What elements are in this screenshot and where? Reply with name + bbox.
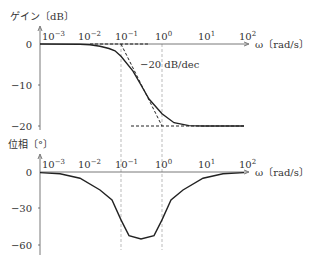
svg-text:102: 102 xyxy=(239,30,256,42)
phase-xlabel: ω〔rad/s〕 xyxy=(255,167,309,178)
gain-xlabel: ω〔rad/s〕 xyxy=(255,39,309,50)
svg-text:10−1: 10−1 xyxy=(115,30,138,42)
svg-text:10−2: 10−2 xyxy=(78,30,101,42)
phase-y-tick-neg30: −30 xyxy=(11,203,32,214)
svg-text:10−1: 10−1 xyxy=(115,158,138,170)
svg-text:101: 101 xyxy=(198,30,215,42)
svg-text:10−2: 10−2 xyxy=(78,158,101,170)
svg-text:101: 101 xyxy=(198,158,215,170)
slope-annotation: −20 dB/dec xyxy=(140,59,200,70)
svg-text:100: 100 xyxy=(155,158,172,170)
gain-ylabel: ゲイン〔dB〕 xyxy=(10,11,74,22)
svg-text:100: 100 xyxy=(155,30,172,42)
bode-plot: ゲイン〔dB〕 ω〔rad/s〕 10−3 10−2 10−1 100 101 … xyxy=(0,0,320,272)
phase-panel: 位相〔°〕 ω〔rad/s〕 10−3 10−2 10−1 100 101 10… xyxy=(8,138,309,255)
gain-asymptote xyxy=(90,44,245,126)
phase-curve xyxy=(40,173,244,239)
gain-y-tick-0: 0 xyxy=(26,39,32,50)
phase-y-tick-neg60: −60 xyxy=(11,240,32,251)
svg-text:10−3: 10−3 xyxy=(42,158,65,170)
gain-y-tick-neg20: −20 xyxy=(11,121,32,132)
svg-text:10−3: 10−3 xyxy=(42,30,65,42)
gain-x-tick-labels: 10−3 10−2 10−1 100 101 102 xyxy=(42,30,256,42)
svg-text:102: 102 xyxy=(239,158,256,170)
gain-y-tick-neg10: −10 xyxy=(11,80,32,91)
phase-ylabel: 位相〔°〕 xyxy=(8,138,53,150)
gain-panel: ゲイン〔dB〕 ω〔rad/s〕 10−3 10−2 10−1 100 101 … xyxy=(10,11,309,132)
phase-y-tick-0: 0 xyxy=(26,167,32,178)
phase-x-tick-labels: 10−3 10−2 10−1 100 101 102 xyxy=(42,158,256,170)
